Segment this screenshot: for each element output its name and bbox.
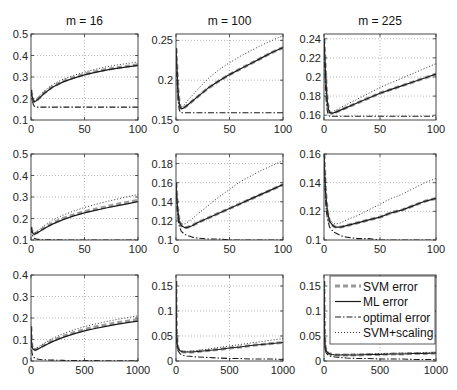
chart-grid: 0501000.10.20.30.40.5m = 160501000.150.2… bbox=[0, 0, 457, 390]
y-tick-label: 0.12 bbox=[152, 215, 173, 227]
y-tick-label: 0.2 bbox=[158, 74, 173, 86]
y-tick-label: 0.3 bbox=[13, 191, 28, 203]
x-tick-label: 0 bbox=[173, 123, 179, 135]
y-tick-label: 0.12 bbox=[300, 205, 321, 217]
x-tick-label: 50 bbox=[374, 243, 386, 255]
subplot-r3-c2: 0500100000.050.10.15 bbox=[152, 275, 296, 376]
subplot-title: m = 225 bbox=[358, 14, 402, 28]
y-tick-label: 0.15 bbox=[152, 280, 173, 292]
y-tick-label: 0.1 bbox=[158, 234, 173, 246]
y-tick-label: 0.4 bbox=[13, 170, 28, 182]
y-tick-label: 0.5 bbox=[13, 28, 28, 40]
x-tick-label: 1000 bbox=[424, 364, 448, 376]
x-tick-label: 0 bbox=[321, 123, 327, 135]
y-tick-label: 0.1 bbox=[306, 234, 321, 246]
subplot-title: m = 16 bbox=[66, 14, 103, 28]
x-tick-label: 0 bbox=[28, 364, 34, 376]
x-tick-label: 50 bbox=[78, 123, 90, 135]
x-tick-label: 100 bbox=[129, 123, 147, 135]
legend-label: optimal error bbox=[363, 311, 430, 325]
subplot-r3-c1: 0500100000.10.20.30.4 bbox=[13, 269, 151, 376]
y-tick-label: 0.18 bbox=[300, 90, 321, 102]
x-tick-label: 0 bbox=[173, 364, 179, 376]
x-tick-label: 0 bbox=[321, 364, 327, 376]
x-tick-label: 0 bbox=[28, 123, 34, 135]
legend-label: SVM+scaling bbox=[363, 326, 433, 340]
y-tick-label: 0.18 bbox=[152, 158, 173, 170]
y-tick-label: 0.16 bbox=[152, 177, 173, 189]
y-tick-label: 0.25 bbox=[152, 34, 173, 46]
y-tick-label: 0.14 bbox=[300, 177, 321, 189]
x-tick-label: 50 bbox=[223, 123, 235, 135]
y-tick-label: 0.16 bbox=[300, 148, 321, 160]
x-tick-label: 1000 bbox=[126, 364, 150, 376]
y-tick-label: 0.24 bbox=[300, 33, 321, 45]
subplot-r3-c3: 0500100000.050.10.15SVM errorML erroropt… bbox=[300, 275, 449, 376]
y-tick-label: 0.15 bbox=[300, 280, 321, 292]
legend-label: ML error bbox=[363, 295, 408, 309]
y-tick-label: 0.3 bbox=[13, 71, 28, 83]
y-tick-label: 0.05 bbox=[152, 330, 173, 342]
x-tick-label: 50 bbox=[78, 243, 90, 255]
y-tick-label: 0.2 bbox=[13, 213, 28, 225]
x-tick-label: 50 bbox=[223, 243, 235, 255]
x-tick-label: 100 bbox=[274, 243, 292, 255]
subplot-r2-c1: 0501000.10.20.30.40.5 bbox=[13, 148, 147, 255]
x-tick-label: 0 bbox=[173, 243, 179, 255]
x-tick-label: 500 bbox=[75, 364, 93, 376]
x-tick-label: 100 bbox=[129, 243, 147, 255]
y-tick-label: 0 bbox=[22, 355, 28, 367]
x-tick-label: 500 bbox=[371, 364, 389, 376]
y-tick-label: 0.1 bbox=[13, 334, 28, 346]
y-tick-label: 0.22 bbox=[300, 52, 321, 64]
y-tick-label: 0.1 bbox=[306, 305, 321, 317]
y-tick-label: 0.1 bbox=[13, 114, 28, 126]
x-tick-label: 100 bbox=[427, 243, 445, 255]
y-tick-label: 0.2 bbox=[13, 93, 28, 105]
y-tick-label: 0 bbox=[167, 355, 173, 367]
x-tick-label: 500 bbox=[220, 364, 238, 376]
y-tick-label: 0.2 bbox=[13, 312, 28, 324]
y-tick-label: 0.3 bbox=[13, 291, 28, 303]
y-tick-label: 0.15 bbox=[152, 114, 173, 126]
x-tick-label: 50 bbox=[374, 123, 386, 135]
legend-label: SVM error bbox=[363, 280, 418, 294]
y-tick-label: 0 bbox=[315, 355, 321, 367]
y-tick-label: 0.05 bbox=[300, 330, 321, 342]
subplot-title: m = 100 bbox=[208, 14, 252, 28]
subplot-r1-c1: 0501000.10.20.30.40.5m = 16 bbox=[13, 14, 147, 135]
subplot-r2-c3: 0501000.10.120.140.16 bbox=[300, 148, 446, 255]
subplot-r1-c2: 0501000.150.20.25m = 100 bbox=[152, 14, 293, 135]
x-tick-label: 0 bbox=[321, 243, 327, 255]
x-tick-label: 1000 bbox=[271, 364, 295, 376]
x-tick-label: 0 bbox=[28, 243, 34, 255]
y-tick-label: 0.4 bbox=[13, 50, 28, 62]
x-tick-label: 100 bbox=[427, 123, 445, 135]
y-tick-label: 0.1 bbox=[13, 234, 28, 246]
y-tick-label: 0.1 bbox=[158, 305, 173, 317]
y-tick-label: 0.4 bbox=[13, 269, 28, 281]
y-tick-label: 0.2 bbox=[306, 71, 321, 83]
x-tick-label: 100 bbox=[274, 123, 292, 135]
subplot-r1-c3: 0501000.160.180.20.220.24m = 225 bbox=[300, 14, 446, 135]
y-tick-label: 0.16 bbox=[300, 109, 321, 121]
subplot-r2-c2: 0501000.10.120.140.160.18 bbox=[152, 154, 293, 255]
y-tick-label: 0.14 bbox=[152, 196, 173, 208]
y-tick-label: 0.5 bbox=[13, 148, 28, 160]
legend: SVM errorML erroroptimal errorSVM+scalin… bbox=[330, 276, 435, 344]
